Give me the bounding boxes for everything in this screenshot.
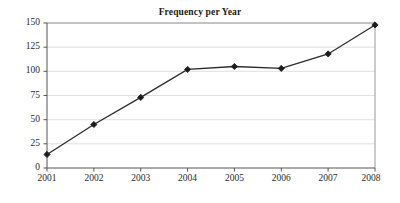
x-tick-label-2004: 2004 bbox=[178, 173, 197, 183]
x-tick-label-2008: 2008 bbox=[362, 173, 381, 183]
y-tick-marks bbox=[44, 23, 48, 168]
series-markers bbox=[44, 22, 378, 158]
y-tick-label-125: 125 bbox=[26, 41, 41, 51]
y-tick-label-0: 0 bbox=[35, 162, 40, 172]
data-point-2001 bbox=[44, 151, 50, 157]
x-tick-label-2001: 2001 bbox=[38, 173, 57, 183]
series-line-frequency bbox=[47, 25, 375, 155]
line-chart-plot: 150 125 100 75 50 25 0 2001 2002 2003 20… bbox=[0, 0, 400, 203]
x-tick-label-2005: 2005 bbox=[225, 173, 244, 183]
chart-figure: Frequency per Year bbox=[0, 0, 400, 203]
data-point-2005 bbox=[231, 63, 237, 69]
y-tick-label-50: 50 bbox=[31, 114, 41, 124]
y-tick-label-75: 75 bbox=[31, 90, 41, 100]
x-tick-label-2007: 2007 bbox=[319, 173, 338, 183]
x-tick-label-2002: 2002 bbox=[84, 173, 103, 183]
x-tick-label-2003: 2003 bbox=[131, 173, 150, 183]
y-tick-label-100: 100 bbox=[26, 65, 41, 75]
data-point-2006 bbox=[278, 65, 284, 71]
y-tick-label-150: 150 bbox=[26, 17, 41, 27]
x-tick-marks bbox=[47, 168, 375, 172]
y-tick-label-25: 25 bbox=[31, 138, 41, 148]
data-point-2007 bbox=[325, 51, 331, 57]
x-tick-label-2006: 2006 bbox=[272, 173, 291, 183]
x-tick-labels: 2001 2002 2003 2004 2005 2006 2007 2008 bbox=[38, 173, 381, 183]
data-point-2002 bbox=[91, 121, 97, 127]
y-tick-labels: 150 125 100 75 50 25 0 bbox=[26, 17, 41, 172]
